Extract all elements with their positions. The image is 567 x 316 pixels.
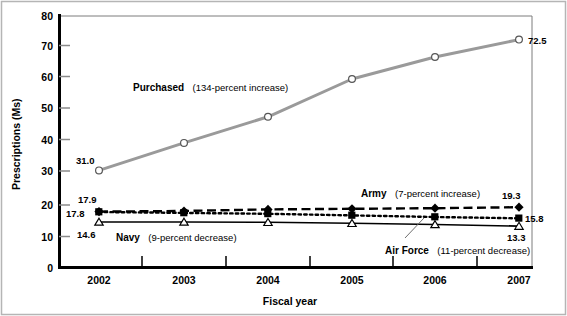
annotation-purchased-bold: Purchased [133, 82, 184, 93]
y-tick-0: 0 [47, 262, 53, 274]
y-tick-50: 50 [41, 102, 53, 114]
y-tick-30: 30 [41, 165, 53, 177]
y-tick-80: 80 [41, 10, 53, 22]
chart-container: 80 70 60 50 40 30 20 10 0 Prescriptions … [0, 0, 567, 316]
y-tick-70: 70 [41, 40, 53, 52]
marker-purchased-2004 [265, 113, 272, 120]
annotation-navy-regular: (9-percent decrease) [148, 232, 236, 243]
x-tick-2004: 2004 [256, 274, 280, 286]
marker-purchased-2006 [432, 54, 439, 61]
marker-purchased-2003 [181, 140, 188, 147]
y-tick-60: 60 [41, 71, 53, 83]
marker-airforce-2006 [431, 213, 438, 220]
value-label-army-last: 19.3 [502, 190, 521, 201]
y-tick-40: 40 [41, 134, 53, 146]
annotation-army-bold: Army [361, 188, 387, 199]
x-tick-2007: 2007 [507, 274, 531, 286]
value-label-airforce-last: 15.8 [525, 213, 544, 224]
y-tick-10: 10 [41, 231, 53, 243]
value-label-navy-first: 14.6 [77, 229, 96, 240]
x-tick-2005: 2005 [340, 274, 364, 286]
x-tick-2006: 2006 [423, 274, 447, 286]
x-axis-title: Fiscal year [263, 295, 317, 307]
x-tick-2002: 2002 [87, 274, 111, 286]
annotation-navy-bold: Navy [116, 232, 140, 243]
x-tick-2003: 2003 [172, 274, 196, 286]
value-label-purchased-last: 72.5 [528, 35, 547, 46]
annotation-purchased-regular: (134-percent increase) [193, 82, 289, 93]
line-chart: 80 70 60 50 40 30 20 10 0 Prescriptions … [0, 0, 567, 316]
marker-airforce-2007 [515, 215, 522, 222]
y-tick-20: 20 [41, 199, 53, 211]
value-label-purchased-first: 31.0 [76, 155, 95, 166]
value-label-army-first: 17.9 [78, 194, 97, 205]
y-axis-title: Prescriptions (Ms) [10, 98, 22, 190]
marker-purchased-2002 [96, 167, 103, 174]
value-label-navy-last: 13.3 [507, 232, 526, 243]
annotation-airforce-regular: (11-percent decrease) [437, 245, 530, 256]
annotation-airforce-bold: Air Force [385, 245, 429, 256]
marker-purchased-2007 [516, 36, 523, 43]
marker-purchased-2005 [349, 76, 356, 83]
value-label-airforce-first: 17.8 [66, 208, 85, 219]
annotation-army-regular: (7-percent increase) [395, 188, 480, 199]
